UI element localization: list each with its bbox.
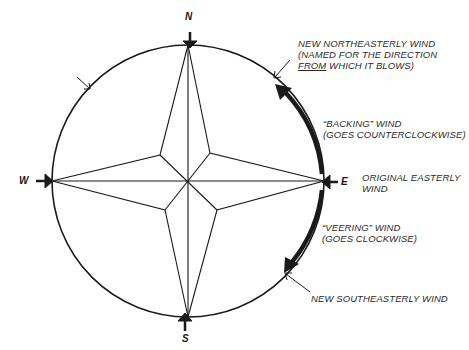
- original-wind-label: ORIGINAL EASTERLY WIND: [362, 172, 460, 194]
- from-emphasis: FROM: [298, 60, 326, 71]
- northeast-label-line3-rest: WHICH IT BLOWS): [326, 60, 414, 71]
- northwest-small-arrow-icon: [77, 77, 90, 89]
- backing-label-line1: “BACKING” WIND: [323, 118, 466, 129]
- backing-wind-label: “BACKING” WIND (GOES COUNTERCLOCKWISE): [323, 118, 466, 140]
- veering-wind-label: “VEERING” WIND (GOES CLOCKWISE): [322, 222, 417, 244]
- northeast-label-line1: NEW NORTHEASTERLY WIND: [298, 38, 437, 49]
- northeast-pointer-icon: [274, 60, 290, 78]
- northeast-label-line3: FROM WHICH IT BLOWS): [298, 60, 437, 71]
- veering-arc-arrow-icon: [284, 190, 322, 273]
- southeast-label-line1: NEW SOUTHEASTERLY WIND: [311, 293, 448, 304]
- northeast-wind-label: NEW NORTHEASTERLY WIND (NAMED FOR THE DI…: [298, 38, 437, 71]
- north-label: N: [185, 11, 192, 22]
- compass-star: [52, 45, 324, 317]
- west-arrow-icon: [36, 174, 53, 188]
- backing-arc-arrow-icon: [275, 84, 322, 174]
- west-label: W: [19, 175, 28, 186]
- south-label: S: [182, 333, 189, 344]
- southeast-wind-label: NEW SOUTHEASTERLY WIND: [311, 293, 448, 304]
- southeast-pointer-icon: [285, 273, 310, 292]
- backing-label-line2: (GOES COUNTERCLOCKWISE): [323, 129, 466, 140]
- east-label: E: [341, 176, 348, 187]
- original-label-line2: WIND: [362, 183, 460, 194]
- original-label-line1: ORIGINAL EASTERLY: [362, 172, 460, 183]
- veering-label-line1: “VEERING” WIND: [322, 222, 417, 233]
- northeast-label-line2: (NAMED FOR THE DIRECTION: [298, 49, 437, 60]
- veering-label-line2: (GOES CLOCKWISE): [322, 233, 417, 244]
- south-arrow-icon: [178, 313, 192, 331]
